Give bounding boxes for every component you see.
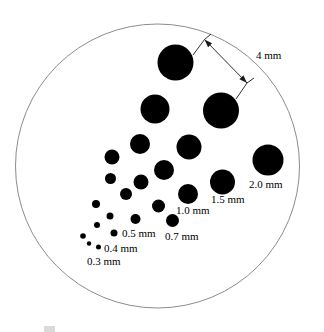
label-0-3mm: 0.3 mm <box>87 256 121 267</box>
caption-mark-icon <box>44 326 55 332</box>
dot-marker <box>203 93 239 129</box>
dot-marker <box>96 245 101 250</box>
dot-marker <box>177 135 202 160</box>
dimension-extension-line-upper <box>205 34 212 40</box>
dot-marker <box>154 160 174 180</box>
dimension-leader-line-lower <box>236 83 247 99</box>
dot-marker <box>94 222 100 228</box>
label-4mm: 4 mm <box>256 50 281 61</box>
dot-marker <box>152 200 165 213</box>
dot-marker <box>92 200 100 208</box>
dot-marker <box>178 184 198 204</box>
label-1-0mm: 1.0 mm <box>176 205 210 216</box>
dot-marker <box>253 145 284 176</box>
label-1-5mm: 1.5 mm <box>211 194 245 205</box>
dot-size-chart-figure: 4 mm2.0 mm1.5 mm1.0 mm0.7 mm0.5 mm0.4 mm… <box>0 0 324 332</box>
dimension-leader-line-upper <box>193 40 205 56</box>
dimension-extension-line-lower <box>247 78 254 83</box>
dot-marker <box>131 214 141 224</box>
dimension-measure-line <box>205 40 248 84</box>
dot-marker <box>111 230 118 237</box>
dots-layer <box>80 45 283 250</box>
label-0-5mm: 0.5 mm <box>122 228 156 239</box>
label-0-4mm: 0.4 mm <box>104 243 138 254</box>
figure-caption <box>44 322 60 332</box>
dot-marker <box>158 45 194 81</box>
dot-marker <box>134 175 149 190</box>
dot-marker <box>120 188 132 200</box>
dot-marker <box>87 241 91 245</box>
dimension-annotation-4mm <box>193 34 254 99</box>
dot-marker <box>105 150 120 165</box>
dot-marker <box>107 213 114 220</box>
dot-marker <box>141 95 170 124</box>
label-0-7mm: 0.7 mm <box>165 231 199 242</box>
dot-marker <box>105 173 116 184</box>
dot-marker <box>80 233 86 239</box>
dot-marker <box>130 134 150 154</box>
label-2-0mm: 2.0 mm <box>249 179 283 190</box>
dot-marker <box>210 170 235 195</box>
